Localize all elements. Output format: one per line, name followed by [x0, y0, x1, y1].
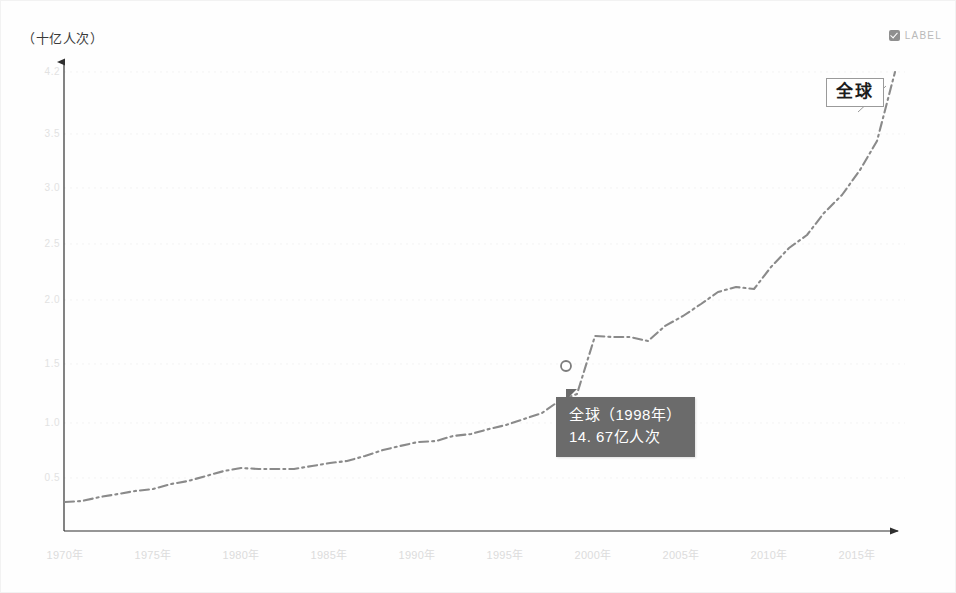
y-tick-label: 0.5: [26, 472, 60, 483]
y-tick-label: 3.0: [26, 182, 60, 193]
y-tick-label: 3.5: [26, 128, 60, 139]
highlight-point-marker[interactable]: [561, 361, 571, 371]
y-tick-label: 1.5: [26, 358, 60, 369]
legend-checkbox-icon[interactable]: [889, 30, 900, 41]
x-tick-label: 1995年: [470, 546, 540, 562]
x-tick-label: 1975年: [118, 546, 188, 562]
tooltip-value: 14. 67亿人次: [569, 426, 682, 448]
series-line-global: [65, 72, 895, 502]
y-tick-label: 2.5: [26, 238, 60, 249]
chart-page: （十亿人次） 4.2 3.5 3.0 2.5 2.0 1.5 1.0 0.5 1…: [0, 0, 956, 593]
y-tick-label: 1.0: [26, 417, 60, 428]
y-axis-label: （十亿人次）: [22, 28, 103, 47]
data-point-tooltip: 全球（1998年） 14. 67亿人次: [556, 397, 695, 457]
x-tick-label: 1985年: [294, 546, 364, 562]
gridlines: [64, 72, 905, 478]
y-tick-label: 4.2: [26, 66, 60, 77]
legend-label: LABEL: [905, 30, 942, 41]
y-tick-label: 2.0: [26, 294, 60, 305]
x-tick-label: 1990年: [382, 546, 452, 562]
x-tick-label: 2015年: [822, 546, 892, 562]
x-tick-label: 2000年: [558, 546, 628, 562]
tooltip-title: 全球（1998年）: [569, 404, 682, 426]
legend[interactable]: LABEL: [889, 30, 942, 41]
x-tick-label: 2005年: [646, 546, 716, 562]
series-callout-label[interactable]: 全球: [826, 78, 884, 107]
x-tick-label: 2010年: [734, 546, 804, 562]
x-tick-label: 1970年: [30, 546, 100, 562]
line-chart-canvas: [0, 0, 956, 593]
x-tick-label: 1980年: [206, 546, 276, 562]
